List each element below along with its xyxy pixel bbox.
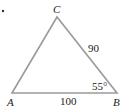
side-label-bc: 90 <box>88 42 100 54</box>
vertex-label-b: B <box>113 96 120 108</box>
vertex-label-c: C <box>53 3 61 15</box>
side-label-ab: 100 <box>60 95 77 107</box>
vertex-label-a: A <box>6 96 14 108</box>
angle-label-b: 55° <box>92 80 107 92</box>
bullet-dot <box>2 10 4 12</box>
triangle-diagram: C A B 90 100 55° <box>0 0 127 112</box>
